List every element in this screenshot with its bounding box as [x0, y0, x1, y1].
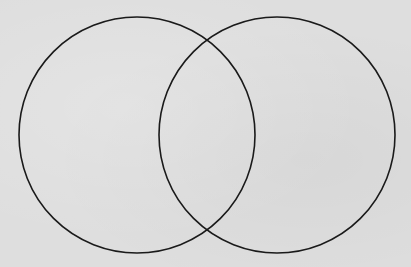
venn-svg — [0, 0, 411, 267]
right-set-circle — [159, 17, 395, 253]
venn-diagram — [0, 0, 411, 267]
left-set-circle — [19, 17, 255, 253]
